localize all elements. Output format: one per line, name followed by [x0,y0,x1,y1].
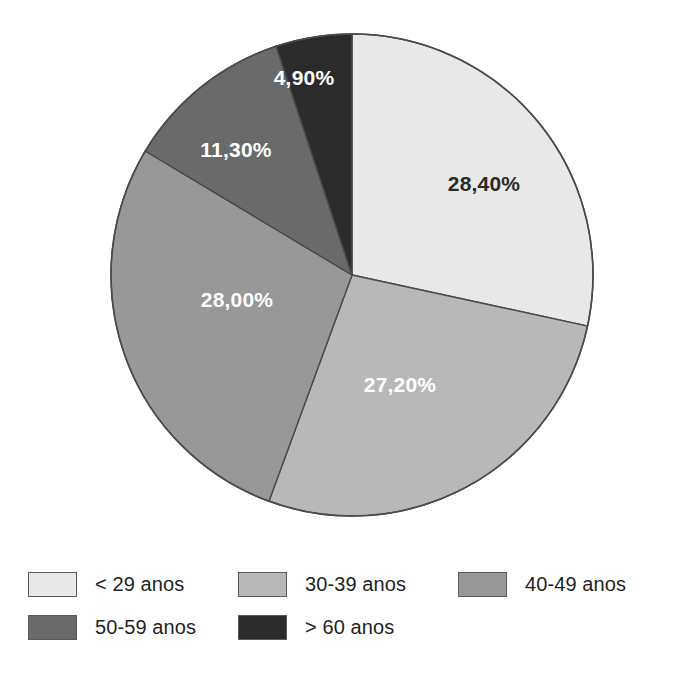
pie-svg [0,0,685,545]
legend-swatch [458,572,507,597]
legend-swatch [238,615,287,640]
pie-chart: 28,40%27,20%28,00%11,30%4,90% < 29 anos3… [0,0,685,695]
legend-swatch [28,572,77,597]
legend-item[interactable]: 50-59 anos [28,606,238,649]
pie-plot-area: 28,40%27,20%28,00%11,30%4,90% [0,0,685,545]
legend-label: 30-39 anos [305,573,406,596]
legend-item[interactable]: 30-39 anos [238,563,458,606]
chart-legend: < 29 anos30-39 anos40-49 anos50-59 anos>… [28,563,668,649]
legend-label: > 60 anos [305,616,394,639]
pie-slice-group [111,34,593,516]
legend-row: 50-59 anos> 60 anos [28,606,668,649]
legend-swatch [238,572,287,597]
legend-label: 40-49 anos [525,573,626,596]
legend-item[interactable]: > 60 anos [238,606,458,649]
legend-swatch [28,615,77,640]
legend-label: 50-59 anos [95,616,196,639]
legend-label: < 29 anos [95,573,184,596]
legend-row: < 29 anos30-39 anos40-49 anos [28,563,668,606]
legend-item[interactable]: < 29 anos [28,563,238,606]
legend-item[interactable]: 40-49 anos [458,563,668,606]
